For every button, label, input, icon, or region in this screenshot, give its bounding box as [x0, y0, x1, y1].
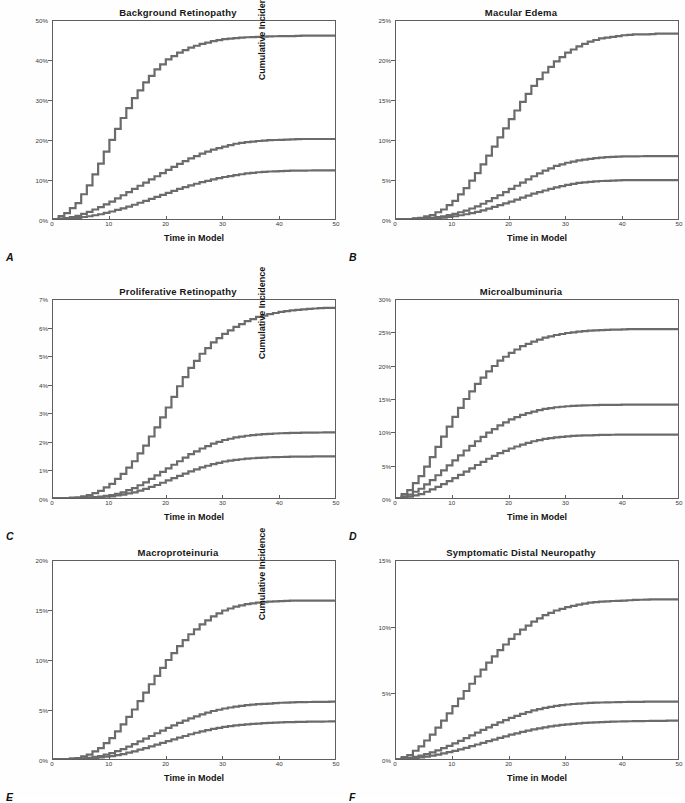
- y-tick-label: 10%: [357, 623, 391, 630]
- x-tick-label: 20: [162, 499, 169, 506]
- curve-3: [53, 456, 335, 498]
- x-tick-label: 0: [393, 220, 396, 227]
- x-tick-label: 0: [393, 760, 396, 767]
- curve-2: [396, 156, 678, 219]
- x-tick-mark: [622, 216, 623, 220]
- x-axis-label: Time in Model: [395, 232, 679, 245]
- x-tick-mark: [565, 495, 566, 499]
- y-tick-label: 5%: [357, 177, 391, 184]
- y-tick-label: 10%: [357, 137, 391, 144]
- plot-frame: [52, 299, 336, 499]
- y-tick-label: 15%: [14, 607, 48, 614]
- x-tick-label: 40: [276, 760, 283, 767]
- curve-1: [396, 329, 678, 498]
- y-tick-label: 50%: [14, 17, 48, 24]
- x-tick-label: 30: [219, 760, 226, 767]
- y-axis-ticks: 15%10%5%0%: [357, 560, 391, 760]
- x-tick-mark: [222, 495, 223, 499]
- panel-a: Background RetinopathyCumulative Inciden…: [0, 6, 342, 245]
- y-tick-label: 10%: [357, 429, 391, 436]
- curve-1: [396, 599, 678, 759]
- x-tick-label: 10: [448, 760, 455, 767]
- x-tick-label: 10: [105, 760, 112, 767]
- x-tick-label: 20: [505, 760, 512, 767]
- x-tick-mark: [222, 756, 223, 760]
- y-tick-label: 15%: [357, 97, 391, 104]
- x-tick-label: 30: [562, 220, 569, 227]
- x-tick-label: 30: [219, 220, 226, 227]
- y-tick-label: 20%: [357, 362, 391, 369]
- x-tick-mark: [452, 216, 453, 220]
- y-tick-label: 1%: [14, 467, 48, 474]
- plot-frame: [395, 20, 679, 220]
- y-tick-label: 20%: [14, 557, 48, 564]
- y-axis-label: Cumulative Incidence: [255, 474, 269, 674]
- curve-2: [53, 139, 335, 219]
- panel-b: Macular EdemaCumulative Incidence25%20%1…: [343, 6, 685, 245]
- x-tick-mark: [166, 495, 167, 499]
- y-axis-ticks: 7%6%5%4%3%2%1%0%: [14, 299, 48, 499]
- plot-area: Cumulative Incidence7%6%5%4%3%2%1%0%: [0, 299, 342, 499]
- y-axis-ticks: 25%20%15%10%5%0%: [357, 20, 391, 220]
- panel-letter: B: [349, 251, 357, 263]
- x-axis-ticks: 01020304050: [395, 220, 679, 232]
- y-tick-label: 30%: [357, 296, 391, 303]
- plot-area: Cumulative Incidence50%40%30%20%10%0%: [0, 20, 342, 220]
- y-tick-label: 7%: [14, 296, 48, 303]
- x-tick-mark: [452, 495, 453, 499]
- x-axis-ticks: 01020304050: [52, 760, 336, 772]
- x-axis-label: Time in Model: [395, 511, 679, 524]
- y-tick-label: 5%: [14, 353, 48, 360]
- x-tick-label: 30: [562, 499, 569, 506]
- plot-area: Cumulative Incidence20%15%10%5%0%: [0, 560, 342, 760]
- y-tick-label: 3%: [14, 410, 48, 417]
- y-tick-label: 10%: [14, 657, 48, 664]
- x-tick-mark: [279, 216, 280, 220]
- y-axis-label: Cumulative Incidence: [255, 213, 269, 413]
- x-tick-mark: [222, 216, 223, 220]
- x-tick-label: 0: [393, 499, 396, 506]
- x-axis-label: Time in Model: [395, 772, 679, 785]
- y-tick-label: 30%: [14, 97, 48, 104]
- y-axis-ticks: 20%15%10%5%0%: [14, 560, 48, 760]
- x-tick-mark: [509, 216, 510, 220]
- x-tick-label: 10: [105, 499, 112, 506]
- x-tick-label: 0: [50, 760, 53, 767]
- x-tick-label: 40: [619, 760, 626, 767]
- y-tick-label: 0%: [357, 757, 391, 764]
- panel-title: Proliferative Retinopathy: [14, 285, 342, 299]
- y-tick-label: 0%: [14, 496, 48, 503]
- x-axis-label: Time in Model: [52, 232, 336, 245]
- y-tick-label: 0%: [357, 217, 391, 224]
- panel-f: Symptomatic Distal NeuropathyCumulative …: [343, 546, 685, 785]
- y-tick-label: 20%: [357, 57, 391, 64]
- y-tick-label: 40%: [14, 57, 48, 64]
- panel-letter: C: [6, 530, 14, 542]
- x-tick-label: 30: [562, 760, 569, 767]
- curve-3: [396, 721, 678, 759]
- x-tick-mark: [109, 495, 110, 499]
- y-tick-label: 20%: [14, 137, 48, 144]
- plot-frame: [52, 560, 336, 760]
- plot-area: Cumulative Incidence15%10%5%0%: [343, 560, 685, 760]
- x-tick-label: 40: [619, 220, 626, 227]
- x-tick-mark: [509, 756, 510, 760]
- x-tick-mark: [279, 756, 280, 760]
- x-tick-label: 50: [676, 499, 683, 506]
- plot-frame: [395, 299, 679, 499]
- x-tick-label: 50: [333, 499, 340, 506]
- y-axis-label: Cumulative Incidence: [255, 0, 269, 134]
- y-tick-label: 15%: [357, 396, 391, 403]
- plot-area: Cumulative Incidence30%25%20%15%10%5%0%: [343, 299, 685, 499]
- x-axis-ticks: 01020304050: [395, 499, 679, 511]
- x-tick-mark: [279, 495, 280, 499]
- curve-2: [53, 432, 335, 498]
- curve-3: [53, 170, 335, 219]
- x-tick-label: 50: [333, 220, 340, 227]
- x-tick-mark: [565, 216, 566, 220]
- y-axis-ticks: 30%25%20%15%10%5%0%: [357, 299, 391, 499]
- x-tick-label: 10: [448, 499, 455, 506]
- x-tick-label: 0: [50, 499, 53, 506]
- y-tick-label: 6%: [14, 324, 48, 331]
- panel-letter: F: [349, 791, 355, 803]
